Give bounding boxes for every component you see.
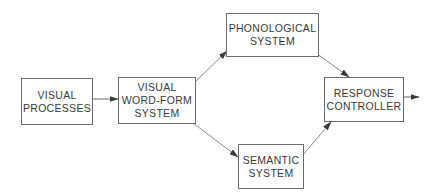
node-label-line: WORD-FORM (122, 94, 192, 107)
node-semantic-system: SEMANTIC SYSTEM (238, 144, 304, 189)
edge-semantic-to-response (302, 122, 331, 156)
node-label-line: VISUAL (137, 81, 176, 94)
node-label-line: CONTROLLER (327, 100, 402, 113)
node-label-line: SYSTEM (250, 35, 295, 48)
node-visual-word-form-system: VISUAL WORD-FORM SYSTEM (118, 77, 196, 124)
node-label-line: RESPONSE (334, 87, 395, 100)
node-response-controller: RESPONSE CONTROLLER (324, 77, 404, 122)
node-phonological-system: PHONOLOGICAL SYSTEM (226, 13, 319, 57)
node-label-line: PROCESSES (23, 102, 91, 115)
edge-wordform-to-semantic (193, 123, 238, 157)
edge-wordform-to-phonological (195, 51, 227, 82)
node-label-line: VISUAL (37, 89, 76, 102)
node-label-line: SEMANTIC (243, 154, 300, 167)
diagram-canvas: VISUAL PROCESSES VISUAL WORD-FORM SYSTEM… (0, 0, 438, 195)
edge-phonological-to-response (316, 53, 349, 77)
node-label-line: PHONOLOGICAL (229, 22, 317, 35)
node-label-line: SYSTEM (135, 107, 180, 120)
node-label-line: SYSTEM (249, 167, 294, 180)
node-visual-processes: VISUAL PROCESSES (21, 78, 93, 125)
